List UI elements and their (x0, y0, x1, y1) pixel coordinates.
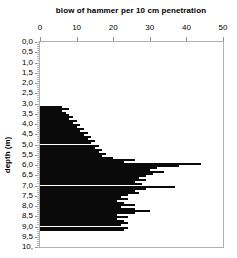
y-tick-label: 5,5 (8, 151, 33, 159)
x-tick-label: 40 (182, 23, 191, 32)
x-tick-label: 0 (38, 23, 42, 32)
chart-title: blow of hammer per 10 cm penetration (56, 6, 206, 15)
y-tick-label: 1,0 (8, 59, 33, 67)
y-tick-label: 3,5 (8, 110, 33, 118)
penetration-bar (40, 229, 124, 231)
x-tick-label: 20 (109, 23, 118, 32)
y-tick-label: 3,0 (8, 100, 33, 108)
y-tick-label: 9,0 (8, 223, 33, 231)
y-tick-label: 2,5 (8, 89, 33, 97)
y-tick-label: 7,5 (8, 192, 33, 200)
x-tick-label: 30 (145, 23, 154, 32)
y-tick-label: 0,0 (8, 38, 33, 46)
y-tick-label: 9,5 (8, 233, 33, 241)
y-tick-label: 6,5 (8, 171, 33, 179)
y-tick-label: 10, (8, 243, 33, 251)
x-tick-label: 50 (219, 23, 228, 32)
y-tick-label: 2,0 (8, 79, 33, 87)
penetration-test-chart: blow of hammer per 10 cm penetration dep… (0, 0, 237, 258)
y-tick-label: 6,0 (8, 161, 33, 169)
y-tick-label: 7,0 (8, 182, 33, 190)
y-tick-label: 8,5 (8, 212, 33, 220)
y-tick-label: 5,0 (8, 141, 33, 149)
y-tick-label: 4,0 (8, 120, 33, 128)
y-tick-label: 4,5 (8, 130, 33, 138)
y-tick-label: 0,5 (8, 48, 33, 56)
y-tick-label: 8,0 (8, 202, 33, 210)
x-tick-label: 10 (72, 23, 81, 32)
plot-area (39, 41, 224, 248)
y-tick-label: 1,5 (8, 69, 33, 77)
